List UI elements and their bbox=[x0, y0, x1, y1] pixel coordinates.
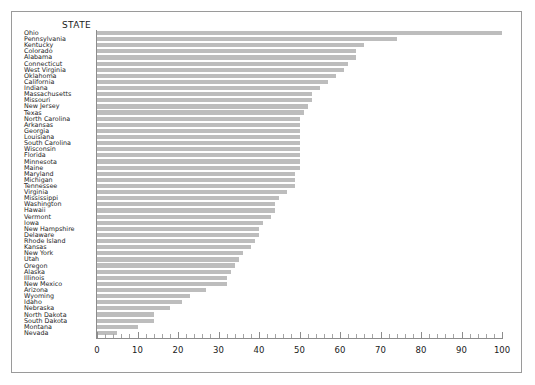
axis-title: STATE bbox=[62, 20, 91, 30]
bar-chart: STATE OhioPennsylvaniaKentuckyColoradoAl… bbox=[0, 0, 535, 385]
bar bbox=[97, 166, 300, 170]
x-tick-minor bbox=[494, 334, 495, 338]
x-tick-minor bbox=[348, 334, 349, 338]
x-tick-minor bbox=[445, 334, 446, 338]
x-tick-minor bbox=[413, 334, 414, 338]
bar bbox=[97, 98, 312, 102]
bar bbox=[97, 159, 300, 163]
x-tick-minor bbox=[316, 334, 317, 338]
x-tick-minor bbox=[170, 334, 171, 338]
x-tick-major bbox=[259, 332, 260, 339]
bar bbox=[97, 74, 336, 78]
x-tick-label: 50 bbox=[294, 345, 305, 355]
x-tick-major bbox=[138, 332, 139, 339]
x-tick-minor bbox=[186, 334, 187, 338]
bar bbox=[97, 80, 328, 84]
bar bbox=[97, 294, 190, 298]
bar bbox=[97, 31, 502, 35]
bar bbox=[97, 276, 227, 280]
x-tick-major bbox=[97, 332, 98, 339]
x-tick-minor bbox=[154, 334, 155, 338]
x-tick-major bbox=[502, 332, 503, 339]
bar bbox=[97, 263, 235, 267]
category-label: Nevada bbox=[24, 330, 96, 336]
bar bbox=[97, 129, 300, 133]
x-tick-minor bbox=[146, 334, 147, 338]
x-tick-minor bbox=[210, 334, 211, 338]
bar bbox=[97, 55, 356, 59]
bar bbox=[97, 123, 300, 127]
bar bbox=[97, 92, 312, 96]
x-tick-label: 10 bbox=[132, 345, 143, 355]
bar bbox=[97, 257, 239, 261]
x-tick-minor bbox=[283, 334, 284, 338]
bar bbox=[97, 172, 295, 176]
x-tick-minor bbox=[332, 334, 333, 338]
bar bbox=[97, 227, 259, 231]
bar bbox=[97, 325, 138, 329]
x-tick-minor bbox=[202, 334, 203, 338]
bar bbox=[97, 49, 356, 53]
bar bbox=[97, 251, 243, 255]
x-tick-label: 100 bbox=[494, 345, 510, 355]
bar bbox=[97, 245, 251, 249]
x-tick-major bbox=[462, 332, 463, 339]
bar bbox=[97, 202, 275, 206]
bar bbox=[97, 178, 295, 182]
bar bbox=[97, 331, 117, 335]
bar bbox=[97, 233, 259, 237]
x-tick-label: 20 bbox=[173, 345, 184, 355]
x-tick-minor bbox=[470, 334, 471, 338]
bar bbox=[97, 215, 271, 219]
plot-area bbox=[97, 30, 508, 336]
x-tick-label: 90 bbox=[456, 345, 467, 355]
bar bbox=[97, 86, 320, 90]
x-tick-minor bbox=[397, 334, 398, 338]
bar bbox=[97, 319, 154, 323]
bar bbox=[97, 147, 300, 151]
x-tick-major bbox=[178, 332, 179, 339]
x-tick-major bbox=[340, 332, 341, 339]
x-tick-minor bbox=[364, 334, 365, 338]
x-tick-minor bbox=[162, 334, 163, 338]
bar bbox=[97, 196, 279, 200]
category-label-column: OhioPennsylvaniaKentuckyColoradoAlabamaC… bbox=[24, 30, 96, 336]
x-tick-minor bbox=[113, 334, 114, 338]
x-tick-label: 60 bbox=[335, 345, 346, 355]
y-axis-line bbox=[96, 30, 97, 338]
bar bbox=[97, 270, 231, 274]
x-tick-minor bbox=[486, 334, 487, 338]
bar bbox=[97, 110, 304, 114]
x-tick-label: 40 bbox=[254, 345, 265, 355]
x-tick-major bbox=[219, 332, 220, 339]
bar bbox=[97, 104, 308, 108]
x-tick-minor bbox=[267, 334, 268, 338]
bar bbox=[97, 306, 170, 310]
x-tick-label: 70 bbox=[375, 345, 386, 355]
x-tick-minor bbox=[429, 334, 430, 338]
bar bbox=[97, 239, 255, 243]
bar bbox=[97, 282, 227, 286]
bar bbox=[97, 153, 300, 157]
x-tick-minor bbox=[324, 334, 325, 338]
x-tick-minor bbox=[389, 334, 390, 338]
x-tick-minor bbox=[478, 334, 479, 338]
x-tick-minor bbox=[227, 334, 228, 338]
x-tick-label: 0 bbox=[94, 345, 99, 355]
bar bbox=[97, 208, 275, 212]
x-tick-minor bbox=[105, 334, 106, 338]
bar bbox=[97, 184, 295, 188]
bar bbox=[97, 190, 287, 194]
bar bbox=[97, 37, 397, 41]
x-tick-major bbox=[421, 332, 422, 339]
x-tick-minor bbox=[437, 334, 438, 338]
x-tick-major bbox=[300, 332, 301, 339]
x-tick-minor bbox=[453, 334, 454, 338]
bar bbox=[97, 117, 300, 121]
x-tick-minor bbox=[405, 334, 406, 338]
x-tick-minor bbox=[194, 334, 195, 338]
bar bbox=[97, 135, 300, 139]
bar bbox=[97, 221, 263, 225]
bar bbox=[97, 300, 182, 304]
x-tick-minor bbox=[129, 334, 130, 338]
